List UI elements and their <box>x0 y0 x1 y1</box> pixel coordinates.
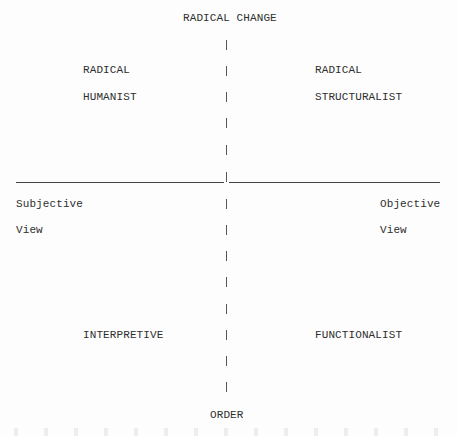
vertical-axis-tick <box>226 251 227 261</box>
axis-label-order: ORDER <box>210 409 244 421</box>
quadrant-radical-humanist-line1: RADICAL <box>83 64 130 76</box>
axis-label-objective-view: View <box>380 224 407 236</box>
vertical-axis-tick <box>226 145 227 155</box>
quadrant-functionalist: FUNCTIONALIST <box>315 329 402 341</box>
axis-label-radical-change: RADICAL CHANGE <box>183 12 277 24</box>
cropped-text-row <box>0 428 457 436</box>
quadrant-radical-structuralist-line1: RADICAL <box>315 64 362 76</box>
quadrant-interpretive: INTERPRETIVE <box>83 329 163 341</box>
axis-label-objective: Objective <box>380 198 440 210</box>
vertical-axis-tick <box>226 356 227 366</box>
vertical-axis-tick <box>226 92 227 102</box>
vertical-axis-tick <box>226 66 227 76</box>
vertical-axis-tick <box>226 118 227 128</box>
vertical-axis-tick <box>226 172 227 182</box>
axis-label-subjective: Subjective <box>16 198 83 210</box>
vertical-axis-tick <box>226 382 227 392</box>
vertical-axis-tick <box>226 40 227 50</box>
quadrant-radical-humanist-line2: HUMANIST <box>83 91 137 103</box>
horizontal-axis-line-left <box>16 182 224 183</box>
vertical-axis-tick <box>226 199 227 209</box>
horizontal-axis-line-right <box>229 182 440 183</box>
vertical-axis-tick <box>226 330 227 340</box>
axis-label-subjective-view: View <box>16 224 43 236</box>
vertical-axis-tick <box>226 225 227 235</box>
vertical-axis-tick <box>226 277 227 287</box>
quadrant-radical-structuralist-line2: STRUCTURALIST <box>315 91 402 103</box>
vertical-axis-tick <box>226 304 227 314</box>
